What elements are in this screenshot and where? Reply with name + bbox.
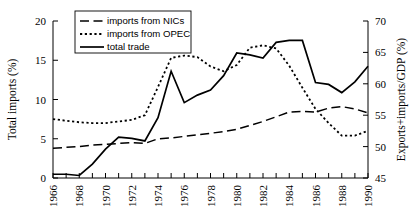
x-axis-tick-label: 1980 xyxy=(231,185,243,208)
x-axis-tick-label: 1968 xyxy=(73,185,85,208)
x-axis-tick-label: 1986 xyxy=(310,185,322,208)
legend-label: total trade xyxy=(107,41,150,52)
x-axis-tick-label: 1988 xyxy=(336,185,348,208)
x-axis-tick-label: 1966 xyxy=(47,185,59,208)
y2-axis-tick-label: 70 xyxy=(375,15,387,27)
y-axis-tick-label: 20 xyxy=(35,15,47,27)
x-axis-tick-label: 1978 xyxy=(205,185,217,208)
legend-label: imports from OPEC xyxy=(107,28,190,39)
y-axis-tick-label: 10 xyxy=(35,94,47,106)
x-axis-tick-label: 1984 xyxy=(283,185,295,208)
x-axis-tick-label: 1970 xyxy=(100,185,112,208)
y2-axis-tick-label: 50 xyxy=(375,141,387,153)
x-axis-tick-label: 1974 xyxy=(152,185,164,208)
y2-axis-tick-label: 55 xyxy=(375,109,387,121)
y-axis-title: Total imports (%) xyxy=(6,59,19,141)
line-chart: 0510152045505560657019661968197019721974… xyxy=(0,0,418,220)
y-axis-tick-label: 0 xyxy=(41,172,47,184)
series-imports-from-nics xyxy=(53,107,368,149)
chart-legend: imports from NICsimports from OPECtotal … xyxy=(75,11,191,53)
y2-axis-tick-label: 60 xyxy=(375,78,387,90)
x-axis-tick-label: 1982 xyxy=(257,185,269,207)
chart-figure: 0510152045505560657019661968197019721974… xyxy=(0,0,418,220)
data-series xyxy=(53,40,368,175)
y2-axis-title: Exports+imports/GDP (%) xyxy=(395,38,408,161)
y2-axis-tick-label: 45 xyxy=(375,172,387,184)
series-total-trade xyxy=(53,40,368,175)
x-axis-tick-label: 1990 xyxy=(362,185,374,208)
x-axis-tick-label: 1976 xyxy=(178,185,190,208)
legend-label: imports from NICs xyxy=(107,15,184,26)
y2-axis-tick-label: 65 xyxy=(375,46,387,58)
x-axis-tick-label: 1972 xyxy=(126,185,138,207)
y-axis-tick-label: 5 xyxy=(41,133,47,145)
y-axis-tick-label: 15 xyxy=(35,54,47,66)
